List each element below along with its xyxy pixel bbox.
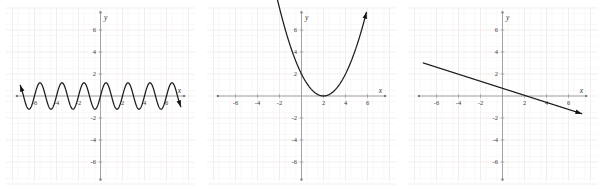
y-tick-label: -4 bbox=[292, 136, 298, 143]
y-axis-label: y bbox=[103, 13, 108, 22]
x-tick-label: 2 bbox=[322, 99, 325, 106]
x-tick-label: -4 bbox=[255, 99, 261, 106]
curve-arrowhead-icon bbox=[177, 100, 181, 107]
y-tick-label: -4 bbox=[493, 136, 499, 143]
x-tick-label: 6 bbox=[366, 99, 370, 106]
y-tick-label: -2 bbox=[91, 114, 96, 121]
graph-panel-graph-parabola: -6-4-2246-6-4-2246xy bbox=[201, 0, 402, 189]
curve-parabola bbox=[275, 0, 366, 96]
x-tick-label: -6 bbox=[434, 99, 440, 106]
y-axis-label: y bbox=[505, 13, 510, 22]
curve-arrowhead-icon bbox=[575, 110, 582, 114]
axes bbox=[217, 11, 386, 180]
y-tick-label: -4 bbox=[91, 136, 97, 143]
x-tick-label: -2 bbox=[277, 99, 282, 106]
x-tick-label: 6 bbox=[567, 99, 571, 106]
y-axis-label: y bbox=[304, 13, 309, 22]
y-tick-label: 2 bbox=[93, 70, 96, 77]
x-axis-label: x bbox=[579, 86, 584, 95]
x-axis-label: x bbox=[378, 86, 383, 95]
x-tick-label: -2 bbox=[478, 99, 483, 106]
graph-panel-graph-line: -6-4-2246-6-4-2246xy bbox=[402, 0, 603, 189]
figure-row: -6-4-2246-6-4-2246xy-6-4-2246-6-4-2246xy… bbox=[0, 0, 605, 189]
x-tick-label: -6 bbox=[233, 99, 239, 106]
y-tick-label: -6 bbox=[91, 158, 97, 165]
y-tick-label: -6 bbox=[292, 158, 298, 165]
y-tick-label: -6 bbox=[493, 158, 499, 165]
curve-arrowhead-icon bbox=[20, 85, 24, 92]
y-tick-label: -2 bbox=[493, 114, 498, 121]
x-tick-label: 2 bbox=[523, 99, 526, 106]
x-tick-label: 4 bbox=[344, 99, 348, 106]
axes bbox=[418, 11, 587, 180]
x-axis-label: x bbox=[177, 86, 182, 95]
y-tick-label: -2 bbox=[292, 114, 297, 121]
graph-panel-graph-sine: -6-4-2246-6-4-2246xy bbox=[0, 0, 201, 189]
x-tick-label: -4 bbox=[456, 99, 462, 106]
y-tick-label: 2 bbox=[294, 70, 297, 77]
y-tick-label: 2 bbox=[495, 70, 498, 77]
